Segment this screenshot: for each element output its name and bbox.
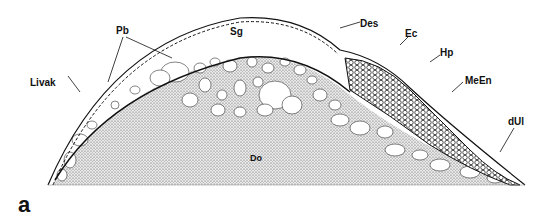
label-sg: Sg [230, 26, 243, 37]
label-dul: dUl [508, 116, 524, 127]
label-meen: MeEn [465, 75, 492, 86]
label-des: Des [360, 18, 379, 29]
label-hp: Hp [440, 47, 453, 58]
label-ec: Ec [405, 28, 418, 39]
label-livak: Livak [30, 77, 56, 88]
panel-label: a [18, 192, 31, 217]
label-do: Do [250, 153, 262, 163]
diagram-canvas: Pb Sg Des Ec Hp MeEn Livak dUl Do a [0, 0, 554, 223]
label-pb: Pb [116, 25, 129, 36]
